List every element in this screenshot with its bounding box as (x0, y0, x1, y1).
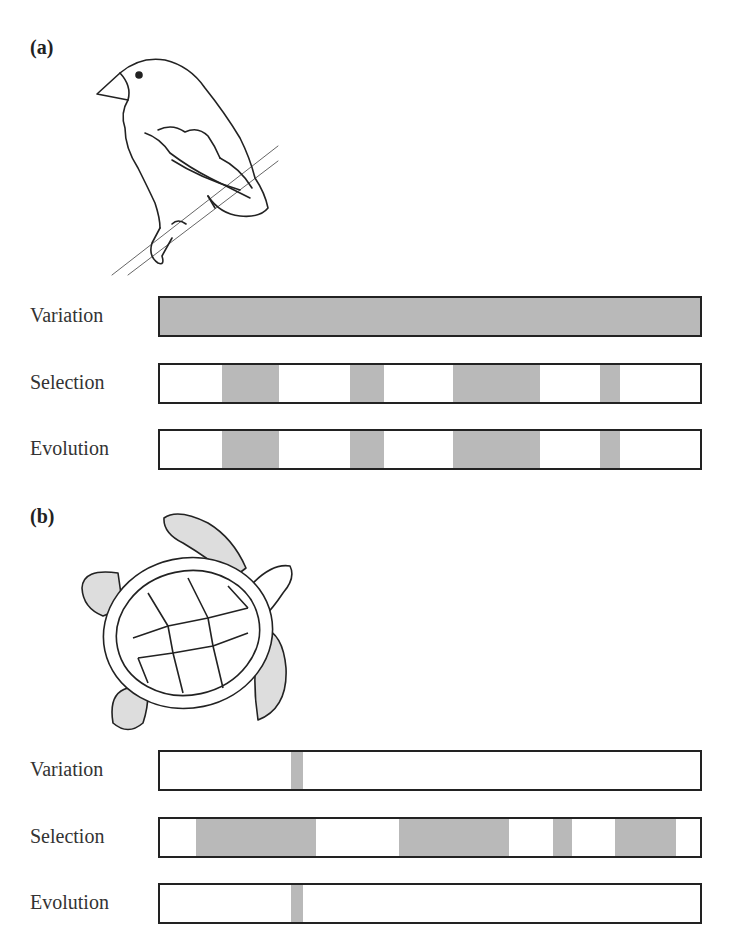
panel-b-label: (b) (30, 505, 54, 528)
selection-segment (553, 819, 572, 856)
variation-bar-b (158, 750, 702, 791)
selection-segment (600, 365, 620, 402)
selection-bar-b (158, 817, 702, 858)
evolution-segment (453, 431, 540, 468)
sea-turtle-icon (78, 508, 298, 733)
row-label-evolution-b: Evolution (30, 891, 109, 914)
selection-bar-a (158, 363, 702, 404)
selection-segment (399, 819, 509, 856)
selection-segment (615, 819, 676, 856)
row-label-evolution-a: Evolution (30, 437, 109, 460)
evolution-bar-a (158, 429, 702, 470)
selection-segment (196, 819, 316, 856)
selection-segment (222, 365, 279, 402)
selection-segment (350, 365, 384, 402)
panel-a-label: (a) (30, 36, 53, 59)
row-label-selection-b: Selection (30, 825, 104, 848)
finch-icon (90, 28, 290, 278)
evolution-segment (291, 885, 303, 922)
evolution-segment (350, 431, 384, 468)
row-label-selection-a: Selection (30, 371, 104, 394)
evolution-bar-b (158, 883, 702, 924)
row-label-variation-a: Variation (30, 304, 103, 327)
variation-bar-a (158, 296, 702, 337)
row-label-variation-b: Variation (30, 758, 103, 781)
evolution-segment (600, 431, 620, 468)
evolution-segment (222, 431, 279, 468)
selection-segment (453, 365, 540, 402)
variation-segment (291, 752, 303, 789)
